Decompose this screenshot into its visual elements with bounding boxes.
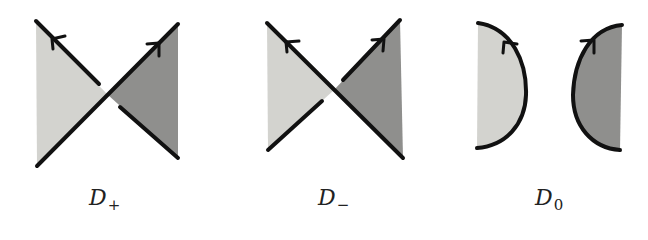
dark-region (573, 25, 622, 150)
dark-region (334, 20, 403, 158)
label-subscript: 0 (554, 196, 564, 214)
label-subscript: + (108, 196, 121, 214)
label-symbol: D (535, 185, 553, 210)
label-subscript: − (337, 196, 350, 214)
label-symbol: D (318, 185, 336, 210)
light-region (36, 21, 108, 166)
dark-region (108, 24, 178, 158)
label-d-plus: D+ (89, 187, 120, 213)
light-region (267, 23, 334, 150)
label-d-minus: D− (318, 187, 349, 213)
panel-d-plus (36, 21, 178, 166)
label-symbol: D (89, 185, 107, 210)
label-d-zero: D0 (535, 187, 563, 213)
light-region (477, 23, 526, 148)
panel-d-minus (267, 20, 403, 158)
panel-d-zero (477, 23, 622, 150)
